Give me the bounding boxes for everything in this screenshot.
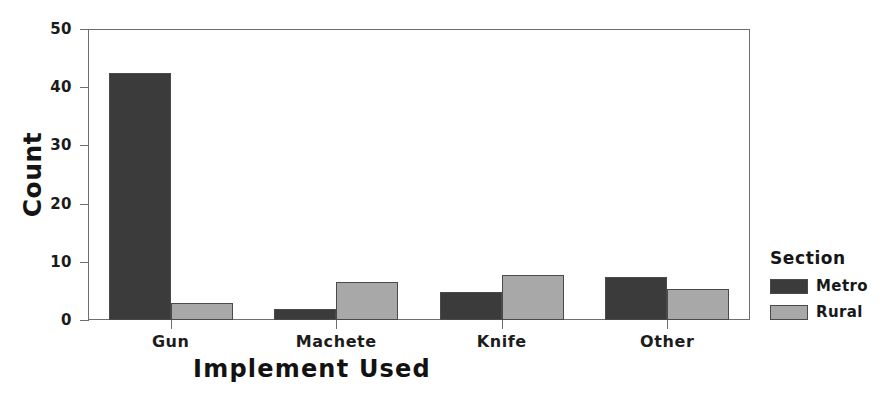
bar-gun-rural <box>171 303 233 320</box>
bar-other-rural <box>667 289 729 320</box>
bar-chart: Count 01020304050 GunMacheteKnifeOther I… <box>0 0 888 402</box>
legend: Section MetroRural <box>770 248 868 329</box>
y-tick-label: 0 <box>28 311 72 329</box>
x-tick-label: Knife <box>422 332 582 351</box>
legend-entry: Rural <box>770 303 868 321</box>
legend-label: Metro <box>816 277 868 295</box>
y-tick-label: 40 <box>28 78 72 96</box>
x-tick-mark <box>171 320 172 329</box>
x-tick-label: Machete <box>256 332 416 351</box>
bar-machete-rural <box>336 282 398 320</box>
y-tick-mark <box>80 145 89 146</box>
x-tick-mark <box>336 320 337 329</box>
legend-swatch-icon <box>770 279 808 294</box>
legend-entries: MetroRural <box>770 277 868 321</box>
bar-machete-metro <box>274 309 336 320</box>
x-tick-label: Gun <box>91 332 251 351</box>
x-axis-title: Implement Used <box>42 355 582 383</box>
x-tick-mark <box>502 320 503 329</box>
legend-swatch-icon <box>770 305 808 320</box>
legend-title: Section <box>770 248 868 268</box>
y-tick-mark <box>80 87 89 88</box>
y-tick-mark <box>80 320 89 321</box>
y-axis-title: Count <box>18 95 47 255</box>
y-tick-mark <box>80 29 89 30</box>
y-tick-mark <box>80 204 89 205</box>
bar-knife-metro <box>440 292 502 320</box>
bar-gun-metro <box>109 73 171 320</box>
x-tick-mark <box>667 320 668 329</box>
bar-other-metro <box>605 277 667 320</box>
legend-entry: Metro <box>770 277 868 295</box>
y-tick-label: 20 <box>28 195 72 213</box>
y-tick-label: 50 <box>28 20 72 38</box>
legend-label: Rural <box>816 303 863 321</box>
y-tick-label: 30 <box>28 136 72 154</box>
bar-knife-rural <box>502 275 564 320</box>
y-tick-mark <box>80 262 89 263</box>
x-tick-label: Other <box>587 332 747 351</box>
y-tick-label: 10 <box>28 253 72 271</box>
